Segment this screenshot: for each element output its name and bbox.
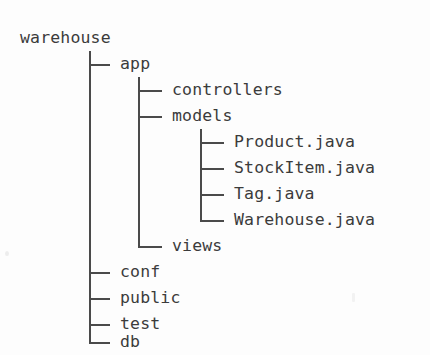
tree-elbow-stub (200, 206, 202, 221)
tree-node-label: db (120, 329, 140, 355)
tree-node-label: Warehouse.java (234, 207, 375, 233)
tree-elbow-icon (138, 246, 162, 248)
tree-tee-icon (200, 168, 224, 170)
tree-elbow-icon (200, 220, 224, 222)
tree-tee-icon (200, 194, 224, 196)
tree-node-label: views (172, 233, 222, 259)
tree-tee-icon (89, 324, 110, 326)
tree-elbow-stub (89, 328, 91, 343)
tree-tee-icon (138, 90, 162, 92)
tree-node-label: app (120, 51, 150, 77)
tree-tee-icon (89, 298, 110, 300)
tree-tee-icon (89, 64, 110, 66)
tree-node-label: models (172, 103, 233, 129)
tree-node-label: StockItem.java (234, 155, 375, 181)
tree-node-label: public (120, 285, 181, 311)
tree-elbow-icon (89, 342, 110, 344)
directory-tree-figure: warehouse appcontrollersmodelsProduct.ja… (0, 0, 430, 355)
tree-node-label: controllers (172, 77, 283, 103)
tree-elbow-stub (138, 232, 140, 247)
tree-trunk-depth-2 (138, 77, 140, 241)
tree-node-label: conf (120, 259, 160, 285)
tree-node-label: Product.java (234, 129, 355, 155)
tree-node-label: Tag.java (234, 181, 315, 207)
tree-tee-icon (138, 116, 162, 118)
tree-trunk-depth-1 (89, 51, 91, 337)
tree-node-list: appcontrollersmodelsProduct.javaStockIte… (0, 0, 430, 355)
tree-tee-icon (200, 142, 224, 144)
tree-tee-icon (89, 272, 110, 274)
